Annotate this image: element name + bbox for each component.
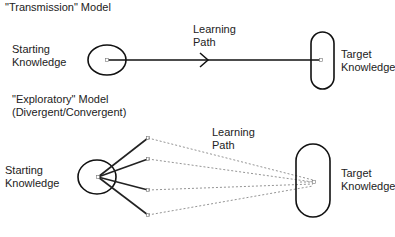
label-line: Learning xyxy=(212,126,255,139)
label-line: Knowledge xyxy=(12,56,66,69)
label-line: Knowledge xyxy=(341,61,395,74)
label-line: Learning xyxy=(193,23,236,36)
transmission-target-knowledge-label: Target Knowledge xyxy=(341,48,395,74)
convergent-path-3 xyxy=(148,184,313,190)
exploratory-target-knowledge-label: Target Knowledge xyxy=(341,167,395,193)
label-line: Starting xyxy=(12,43,66,56)
start-point xyxy=(106,59,109,62)
end-point xyxy=(313,181,316,184)
transmission-learning-path-label: Learning Path xyxy=(193,23,236,49)
transmission-starting-knowledge-label: Starting Knowledge xyxy=(12,43,66,69)
convergent-path-2 xyxy=(148,159,313,182)
label-line: "Exploratory" Model xyxy=(12,93,126,106)
divergent-path-1 xyxy=(98,138,148,177)
exploratory-diagram xyxy=(78,137,330,218)
transmission-model-title: "Transmission" Model xyxy=(5,1,111,14)
exploratory-model-title: "Exploratory" Model (Divergent/Convergen… xyxy=(12,93,126,119)
label-line: Knowledge xyxy=(5,177,59,190)
end-point xyxy=(320,59,323,62)
exploratory-starting-knowledge-label: Starting Knowledge xyxy=(5,164,59,190)
label-line: Knowledge xyxy=(341,180,395,193)
label-line: Path xyxy=(212,139,255,152)
label-line: (Divergent/Convergent) xyxy=(12,106,126,119)
label-line: Starting xyxy=(5,164,59,177)
label-line: Target xyxy=(341,167,395,180)
exploratory-learning-path-label: Learning Path xyxy=(212,126,255,152)
label-line: Path xyxy=(193,36,236,49)
start-point xyxy=(97,176,100,179)
convergent-path-4 xyxy=(148,186,313,215)
label-line: Target xyxy=(341,48,395,61)
